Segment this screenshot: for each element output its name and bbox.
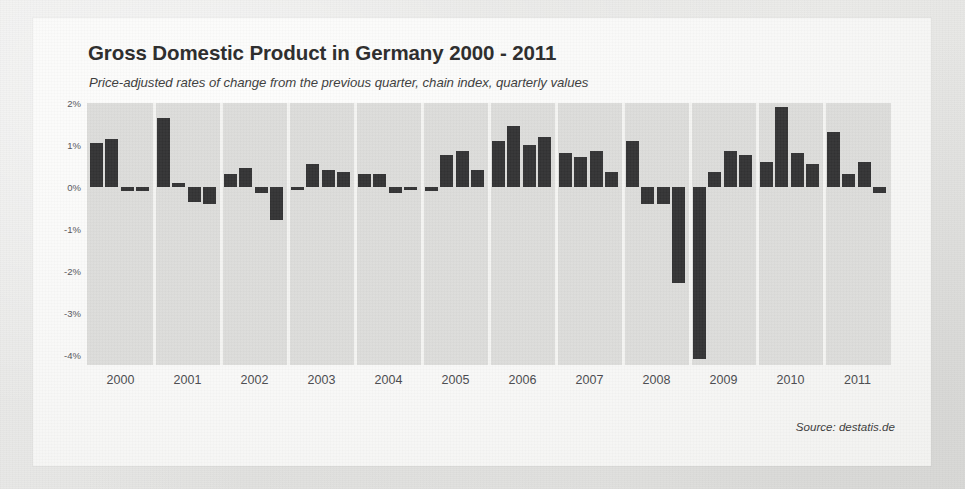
- bar-2011-Q4: [873, 187, 886, 193]
- bar-2010-Q3: [791, 153, 804, 187]
- x-axis-tick-label: 2009: [710, 373, 738, 387]
- year-band-separator: [220, 103, 223, 365]
- bar-2004-Q4: [404, 187, 417, 191]
- bar-2011-Q3: [858, 162, 871, 187]
- year-band-separator: [153, 103, 156, 365]
- bar-2001-Q1: [157, 118, 170, 187]
- year-band: [288, 103, 355, 365]
- bar-2003-Q1: [291, 187, 304, 191]
- plot-area: [87, 103, 891, 365]
- x-axis-tick-label: 2001: [174, 373, 202, 387]
- bar-2002-Q4: [270, 187, 283, 221]
- year-band-separator: [488, 103, 491, 365]
- bar-2001-Q3: [188, 187, 201, 202]
- bar-2005-Q1: [425, 187, 438, 191]
- bar-2003-Q4: [337, 172, 350, 187]
- bar-2000-Q4: [136, 187, 149, 191]
- x-axis: 2000200120022003200420052006200720082009…: [87, 373, 891, 395]
- bar-2009-Q2: [708, 172, 721, 187]
- source-note: Source: destatis.de: [796, 420, 895, 433]
- x-axis-tick-label: 2010: [777, 373, 805, 387]
- chart-plot-wrapper: 2%1%0%-1%-2%-3%-4% 200020012002200320042…: [33, 18, 931, 466]
- bar-2005-Q3: [456, 151, 469, 187]
- y-axis-tick-label: -2%: [64, 265, 81, 276]
- y-axis-tick-label: 0%: [67, 181, 81, 192]
- bar-2006-Q1: [492, 141, 505, 187]
- year-band-separator: [622, 103, 625, 365]
- bar-2009-Q1: [693, 187, 706, 359]
- y-axis-tick-label: -1%: [64, 223, 81, 234]
- year-band-separator: [354, 103, 357, 365]
- y-axis-tick-label: 2%: [67, 98, 81, 109]
- chart-card: Gross Domestic Product in Germany 2000 -…: [33, 18, 931, 466]
- bar-2010-Q4: [806, 164, 819, 187]
- bar-2008-Q1: [626, 141, 639, 187]
- x-axis-tick-label: 2000: [107, 373, 135, 387]
- year-band-separator: [555, 103, 558, 365]
- bar-2001-Q4: [203, 187, 216, 204]
- bar-2002-Q1: [224, 174, 237, 187]
- bar-2004-Q1: [358, 174, 371, 187]
- bar-2005-Q2: [440, 155, 453, 186]
- bar-2000-Q3: [121, 187, 134, 191]
- bar-2011-Q2: [842, 174, 855, 187]
- year-band: [422, 103, 489, 365]
- x-axis-tick-label: 2008: [643, 373, 671, 387]
- year-band: [556, 103, 623, 365]
- x-axis-tick-label: 2006: [509, 373, 537, 387]
- bar-2009-Q4: [739, 155, 752, 186]
- bar-2005-Q4: [471, 170, 484, 187]
- bar-2006-Q2: [507, 126, 520, 187]
- bar-2003-Q3: [322, 170, 335, 187]
- bar-2010-Q2: [775, 107, 788, 187]
- bar-2007-Q2: [574, 157, 587, 186]
- bar-2007-Q4: [605, 172, 618, 187]
- bar-2003-Q2: [306, 164, 319, 187]
- bar-2011-Q1: [827, 132, 840, 186]
- year-band-separator: [421, 103, 424, 365]
- y-axis-tick-label: -4%: [64, 349, 81, 360]
- year-band-separator: [823, 103, 826, 365]
- x-axis-tick-label: 2005: [442, 373, 470, 387]
- year-band: [221, 103, 288, 365]
- bar-2007-Q1: [559, 153, 572, 187]
- y-axis-tick-label: -3%: [64, 307, 81, 318]
- x-axis-tick-label: 2002: [241, 373, 269, 387]
- y-axis: 2%1%0%-1%-2%-3%-4%: [47, 103, 81, 365]
- bar-2006-Q3: [523, 145, 536, 187]
- bar-2009-Q3: [724, 151, 737, 187]
- bar-2008-Q2: [641, 187, 654, 204]
- x-axis-tick-label: 2007: [576, 373, 604, 387]
- bar-2001-Q2: [172, 183, 185, 187]
- bar-2008-Q4: [672, 187, 685, 283]
- bar-2008-Q3: [657, 187, 670, 204]
- year-band: [757, 103, 824, 365]
- bar-2006-Q4: [538, 137, 551, 187]
- y-axis-tick-label: 1%: [67, 139, 81, 150]
- bar-2002-Q3: [255, 187, 268, 193]
- bar-2007-Q3: [590, 151, 603, 187]
- x-axis-tick-label: 2004: [375, 373, 403, 387]
- x-axis-tick-label: 2011: [844, 373, 871, 387]
- x-axis-tick-label: 2003: [308, 373, 336, 387]
- year-band-separator: [756, 103, 759, 365]
- bar-2010-Q1: [760, 162, 773, 187]
- year-band-separator: [287, 103, 290, 365]
- bar-2002-Q2: [239, 168, 252, 187]
- year-band-separator: [689, 103, 692, 365]
- bar-2000-Q1: [90, 143, 103, 187]
- bar-2004-Q3: [389, 187, 402, 193]
- year-band: [355, 103, 422, 365]
- bar-2000-Q2: [105, 139, 118, 187]
- bar-2004-Q2: [373, 174, 386, 187]
